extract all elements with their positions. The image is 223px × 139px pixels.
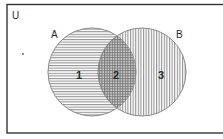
set-a-label: A: [51, 29, 58, 40]
stray-dot: [22, 53, 24, 55]
set-b-label: B: [176, 29, 183, 40]
universe-label: U: [12, 10, 19, 21]
region-3-label: 3: [158, 69, 164, 81]
region-2-label: 2: [113, 69, 119, 81]
region-1-label: 1: [76, 69, 82, 81]
venn-diagram: U A B 1 2 3: [0, 0, 223, 139]
